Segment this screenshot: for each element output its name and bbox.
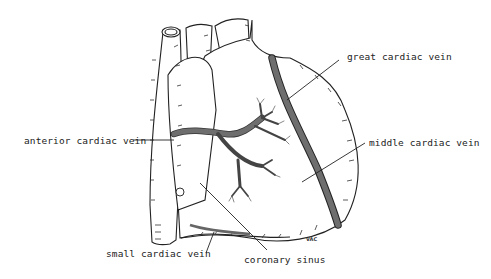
vessel-opening [176,188,184,196]
label-middle-cardiac-vein: middle cardiac vein [369,137,480,148]
label-anterior-cardiac-vein: anterior cardiac vein [24,135,146,146]
label-small-cardiac-vein: small cardiac vein [106,248,211,259]
label-great-cardiac-vein: great cardiac vein [347,51,452,62]
artist-signature: VAC [306,236,317,242]
label-coronary-sinus: coronary sinus [244,254,325,265]
